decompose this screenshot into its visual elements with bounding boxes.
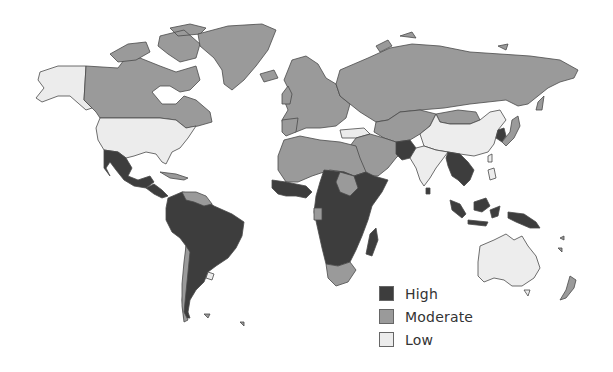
region-uruguay bbox=[206, 272, 214, 280]
legend-item-high: High bbox=[379, 282, 473, 305]
region-caribbean bbox=[160, 172, 188, 180]
region-australia bbox=[478, 234, 540, 286]
legend-item-moderate: Moderate bbox=[379, 305, 473, 328]
region-new-guinea bbox=[508, 212, 540, 228]
legend-label-high: High bbox=[405, 286, 438, 302]
legend: High Moderate Low bbox=[379, 282, 473, 351]
region-iceland bbox=[260, 70, 278, 82]
region-iberia bbox=[282, 118, 298, 136]
swatch-low bbox=[379, 332, 394, 347]
region-west-africa bbox=[272, 180, 312, 198]
region-pacific-islands bbox=[558, 236, 564, 252]
region-falklands bbox=[204, 314, 244, 326]
region-canada bbox=[84, 58, 212, 128]
region-tasmania bbox=[524, 290, 530, 296]
swatch-high bbox=[379, 286, 394, 301]
region-taiwan bbox=[488, 154, 492, 162]
world-map bbox=[0, 0, 613, 372]
region-sri-lanka bbox=[426, 188, 430, 194]
legend-label-moderate: Moderate bbox=[405, 309, 473, 325]
region-central-america bbox=[146, 184, 168, 198]
region-alaska bbox=[36, 66, 92, 110]
region-indonesia bbox=[450, 198, 500, 226]
region-arctic-islands bbox=[110, 24, 206, 62]
region-india bbox=[410, 146, 448, 186]
legend-label-low: Low bbox=[405, 332, 433, 348]
region-mongolia bbox=[436, 110, 480, 124]
legend-item-low: Low bbox=[379, 328, 473, 351]
region-south-america bbox=[166, 192, 244, 318]
swatch-moderate bbox=[379, 309, 394, 324]
region-southern-africa bbox=[326, 262, 356, 286]
region-madagascar bbox=[366, 228, 378, 256]
region-philippines bbox=[488, 168, 496, 180]
region-gabon-congo bbox=[314, 208, 322, 220]
region-new-zealand bbox=[560, 276, 576, 300]
region-southeast-asia bbox=[446, 152, 474, 186]
